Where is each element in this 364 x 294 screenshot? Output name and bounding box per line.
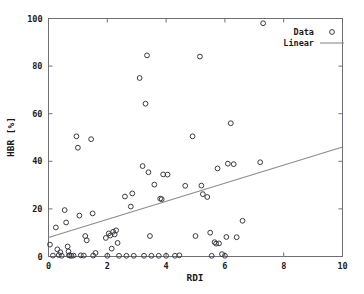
data-point bbox=[225, 161, 230, 166]
data-point bbox=[148, 234, 153, 239]
data-point bbox=[124, 253, 129, 258]
data-point bbox=[123, 194, 128, 199]
data-point bbox=[140, 164, 145, 169]
data-point bbox=[137, 76, 142, 81]
data-point bbox=[62, 208, 67, 213]
x-tick-label: 10 bbox=[337, 261, 347, 271]
data-point bbox=[55, 247, 60, 252]
data-point bbox=[258, 160, 263, 165]
data-point bbox=[149, 253, 154, 258]
data-point bbox=[198, 54, 203, 59]
data-point bbox=[208, 230, 213, 235]
y-axis-title: HBR [%] bbox=[5, 117, 16, 157]
data-point bbox=[64, 220, 69, 225]
data-point bbox=[81, 253, 86, 258]
y-tick-label: 0 bbox=[37, 252, 42, 262]
legend-label-linear: Linear bbox=[283, 38, 314, 48]
legend-marker-data-icon bbox=[330, 30, 335, 35]
data-point bbox=[234, 235, 239, 240]
data-point bbox=[217, 241, 222, 246]
data-point bbox=[77, 213, 82, 218]
data-point bbox=[89, 137, 94, 142]
y-tick-label: 100 bbox=[27, 14, 42, 24]
legend: Data Linear bbox=[283, 27, 344, 48]
data-point bbox=[183, 183, 188, 188]
data-point bbox=[215, 166, 220, 171]
data-point bbox=[84, 238, 89, 243]
data-point bbox=[109, 246, 114, 251]
data-point bbox=[190, 134, 195, 139]
x-tick-label: 8 bbox=[281, 261, 286, 271]
data-point bbox=[117, 253, 122, 258]
y-tick-label: 20 bbox=[32, 204, 42, 214]
x-tick-label: 6 bbox=[222, 261, 227, 271]
data-point bbox=[156, 253, 161, 258]
x-axis-ticks: 0246810 bbox=[46, 19, 348, 271]
data-point bbox=[228, 121, 233, 126]
legend-label-data: Data bbox=[294, 27, 314, 37]
data-point bbox=[51, 253, 56, 258]
data-point bbox=[209, 253, 214, 258]
data-point bbox=[90, 211, 95, 216]
regression-line bbox=[49, 147, 343, 237]
plot-canvas: 0246810 020406080100 RDI HBR [%] Data Li… bbox=[0, 0, 364, 294]
data-point bbox=[53, 225, 58, 230]
data-point bbox=[200, 192, 205, 197]
x-tick-label: 0 bbox=[46, 261, 51, 271]
y-tick-label: 80 bbox=[32, 61, 42, 71]
data-point bbox=[231, 162, 236, 167]
y-tick-label: 60 bbox=[32, 109, 42, 119]
data-point bbox=[199, 183, 204, 188]
data-point bbox=[145, 53, 150, 58]
data-point bbox=[152, 182, 157, 187]
linear-fit-line bbox=[49, 147, 343, 237]
data-point bbox=[130, 191, 135, 196]
data-point bbox=[146, 170, 151, 175]
data-point bbox=[261, 21, 266, 26]
data-point bbox=[142, 253, 147, 258]
data-point bbox=[76, 145, 81, 150]
data-point bbox=[128, 204, 133, 209]
data-point bbox=[205, 195, 210, 200]
data-point bbox=[65, 244, 70, 249]
data-point bbox=[115, 241, 120, 246]
scatter-plot-figure: 0246810 020406080100 RDI HBR [%] Data Li… bbox=[0, 0, 364, 294]
data-point bbox=[143, 101, 148, 106]
y-tick-label: 40 bbox=[32, 156, 42, 166]
data-point bbox=[193, 234, 198, 239]
data-point-markers bbox=[48, 21, 266, 258]
x-tick-label: 4 bbox=[164, 261, 169, 271]
data-point bbox=[131, 253, 136, 258]
data-point bbox=[224, 235, 229, 240]
data-point bbox=[74, 134, 79, 139]
data-point bbox=[240, 218, 245, 223]
x-tick-label: 2 bbox=[105, 261, 110, 271]
x-axis-title: RDI bbox=[186, 272, 203, 283]
